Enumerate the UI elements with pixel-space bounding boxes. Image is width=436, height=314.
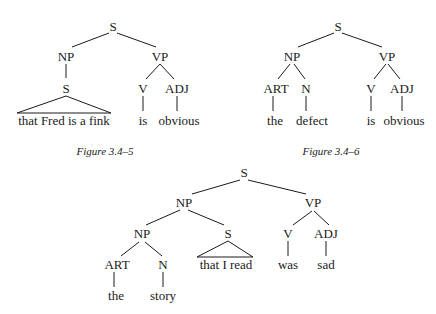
edge (342, 33, 382, 47)
node-vp: VP (379, 49, 396, 64)
leaf-noun: defect (296, 113, 328, 128)
leaf-clause: that I read (200, 257, 253, 272)
leaf-verb: is (139, 113, 148, 128)
edge (117, 33, 156, 47)
node-vp: VP (305, 195, 322, 210)
tree-relative-clause: S NP VP NP S that I read ART N the story… (104, 165, 338, 303)
leaf-clause: that Fred is a fink (18, 113, 110, 128)
edge (298, 33, 334, 47)
edge (146, 210, 180, 225)
node-np: NP (176, 195, 193, 210)
node-adj: ADJ (314, 226, 338, 241)
edge (188, 210, 224, 225)
tree-figure-3-4-6: S NP VP ART N the defect V ADJ is obviou… (263, 19, 424, 157)
edge (293, 211, 312, 225)
node-adj: ADJ (390, 81, 414, 96)
node-vp: VP (152, 49, 169, 64)
node-art: ART (263, 81, 288, 96)
syntax-tree-diagrams: S NP VP S that Fred is a fink V ADJ is o… (0, 0, 436, 314)
edge (374, 64, 386, 79)
node-s: S (109, 19, 116, 34)
node-np: NP (284, 49, 301, 64)
edge (121, 242, 139, 256)
leaf-verb: is (367, 113, 376, 128)
edge (72, 33, 109, 47)
edge (145, 242, 162, 256)
leaf-adjective: sad (317, 257, 335, 272)
triangle-abbreviation (197, 241, 253, 257)
leaf-adjective: obvious (383, 113, 424, 128)
node-v: V (283, 226, 293, 241)
node-s-rel: S (224, 226, 231, 241)
node-s: S (334, 19, 341, 34)
edge (248, 180, 306, 194)
edge (146, 64, 160, 79)
leaf-noun: story (150, 288, 177, 303)
node-np-inner: NP (134, 226, 151, 241)
leaf-article: the (108, 288, 124, 303)
tree-figure-3-4-5: S NP VP S that Fred is a fink V ADJ is o… (17, 19, 200, 157)
node-art: ART (104, 257, 129, 272)
node-v: V (366, 81, 376, 96)
figure-caption: Figure 3.4–6 (301, 145, 360, 157)
figure-caption: Figure 3.4–5 (75, 145, 134, 157)
edge (278, 64, 290, 79)
node-adj: ADJ (165, 81, 189, 96)
edge (160, 64, 174, 79)
node-v: V (138, 81, 148, 96)
node-n: N (301, 81, 311, 96)
triangle-abbreviation (17, 96, 111, 113)
leaf-article: the (267, 113, 283, 128)
node-n: N (158, 257, 168, 272)
node-np: NP (58, 49, 75, 64)
leaf-adjective: obvious (158, 113, 199, 128)
edge (294, 64, 305, 79)
leaf-verb: was (278, 257, 298, 272)
edge (192, 180, 240, 194)
node-s: S (240, 165, 247, 180)
edge (314, 211, 329, 225)
node-s-sub: S (62, 81, 69, 96)
edge (388, 64, 400, 79)
